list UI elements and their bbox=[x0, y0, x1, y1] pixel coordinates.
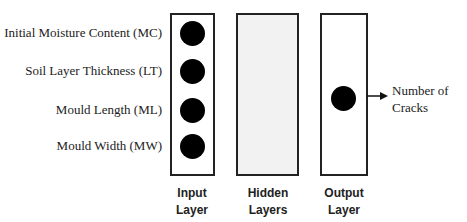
output-layer-caption: Output Layer bbox=[309, 185, 379, 219]
arrow-icon bbox=[367, 90, 389, 102]
input-caption-line1: Input bbox=[157, 185, 227, 202]
input-caption-line2: Layer bbox=[157, 202, 227, 219]
output-label-line2: Cracks bbox=[392, 99, 449, 116]
output-node bbox=[331, 86, 356, 111]
hidden-layers-caption: Hidden Layers bbox=[233, 185, 303, 219]
input-label-mc: Initial Moisture Content (MC) bbox=[4, 25, 162, 41]
output-label: Number of Cracks bbox=[392, 82, 449, 116]
input-node-mw bbox=[180, 134, 205, 159]
input-node-ml bbox=[180, 98, 205, 123]
hidden-layers-box bbox=[236, 13, 299, 176]
hidden-caption-line1: Hidden bbox=[233, 185, 303, 202]
input-label-lt: Soil Layer Thickness (LT) bbox=[25, 63, 162, 79]
input-node-lt bbox=[180, 59, 205, 84]
input-label-ml: Mould Length (ML) bbox=[56, 102, 162, 118]
input-label-mw: Mould Width (MW) bbox=[57, 138, 162, 154]
output-caption-line2: Layer bbox=[309, 202, 379, 219]
hidden-caption-line2: Layers bbox=[233, 202, 303, 219]
output-caption-line1: Output bbox=[309, 185, 379, 202]
input-node-mc bbox=[180, 21, 205, 46]
output-label-line1: Number of bbox=[392, 82, 449, 99]
input-layer-caption: Input Layer bbox=[157, 185, 227, 219]
